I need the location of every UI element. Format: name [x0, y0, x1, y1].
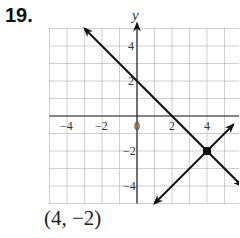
- svg-text:0: 0: [134, 119, 140, 133]
- svg-text:−2: −2: [95, 119, 108, 133]
- axes: xy: [50, 7, 240, 204]
- svg-text:2: 2: [169, 119, 175, 133]
- answer-text: (4, −2): [44, 206, 101, 231]
- svg-text:y: y: [130, 7, 139, 23]
- svg-text:−4: −4: [60, 119, 73, 133]
- svg-text:−2: −2: [123, 144, 136, 158]
- svg-text:4: 4: [204, 119, 210, 133]
- svg-text:4: 4: [128, 39, 134, 53]
- svg-text:−4: −4: [123, 179, 136, 193]
- graph: xy −4−202442−2−4: [0, 0, 239, 238]
- svg-text:2: 2: [128, 74, 134, 88]
